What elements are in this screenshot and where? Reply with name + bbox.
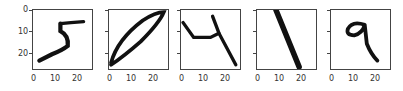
x-tick-0: 0 (179, 75, 184, 83)
y-tick-mark (29, 10, 32, 11)
y-tick-mark (177, 53, 180, 54)
x-tick-0: 0 (31, 75, 36, 83)
y-tick-mark (105, 53, 108, 54)
x-tick-10: 10 (348, 75, 358, 83)
x-tick-20: 20 (148, 75, 158, 83)
y-tick-0: 0 (23, 6, 28, 14)
x-tick-10: 10 (198, 75, 208, 83)
digit-panel-0 (108, 9, 169, 70)
x-tick-10: 10 (126, 75, 136, 83)
x-tick-20: 20 (370, 75, 380, 83)
y-tick-mark (29, 53, 32, 54)
digit-panel-4 (180, 9, 241, 70)
digit-panel-9 (330, 9, 391, 70)
y-tick-mark (177, 10, 180, 11)
x-tick-0: 0 (329, 75, 334, 83)
y-tick-mark (253, 53, 256, 54)
y-tick-mark (29, 31, 32, 32)
y-tick-mark (327, 53, 330, 54)
x-tick-10: 10 (50, 75, 60, 83)
y-tick-10: 10 (18, 28, 28, 36)
x-tick-20: 20 (220, 75, 230, 83)
y-tick-mark (105, 10, 108, 11)
digit-4-image (181, 10, 240, 69)
y-tick-20: 20 (18, 50, 28, 58)
x-tick-0: 0 (107, 75, 112, 83)
x-tick-0: 0 (255, 75, 260, 83)
y-tick-mark (327, 10, 330, 11)
y-tick-mark (105, 31, 108, 32)
y-tick-mark (327, 31, 330, 32)
digit-1-image (257, 10, 316, 69)
digit-5-image (33, 10, 92, 69)
digit-0-image (109, 10, 168, 69)
x-tick-20: 20 (296, 75, 306, 83)
y-tick-mark (253, 10, 256, 11)
x-tick-20: 20 (72, 75, 82, 83)
digit-panel-5 (32, 9, 93, 70)
digit-9-image (331, 10, 390, 69)
y-tick-mark (177, 31, 180, 32)
y-tick-mark (253, 31, 256, 32)
digit-panel-1 (256, 9, 317, 70)
x-tick-10: 10 (274, 75, 284, 83)
